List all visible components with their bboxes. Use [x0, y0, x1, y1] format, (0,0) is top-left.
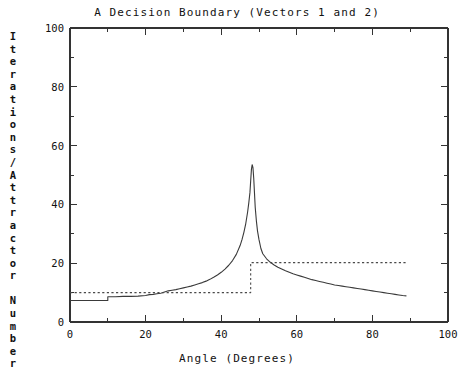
plot-axes	[70, 28, 448, 322]
series-line-iterations	[70, 165, 406, 301]
plot-series	[70, 165, 406, 301]
chart-figure: A Decision Boundary (Vectors 1 and 2) It…	[0, 0, 474, 382]
plot-canvas	[0, 0, 474, 382]
